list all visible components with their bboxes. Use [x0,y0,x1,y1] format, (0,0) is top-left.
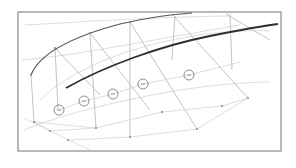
lattice-node [54,47,56,49]
lattice-node [129,21,131,23]
lattice-node [30,74,32,76]
wireframe-diagram [0,0,296,168]
lattice-node [95,127,97,129]
lattice-node [67,139,69,141]
lattice-node [196,128,198,130]
diagram-frame [18,12,281,151]
lattice-node [129,136,131,138]
lattice-node [161,111,163,113]
lattice-node [89,32,91,34]
lattice-node [49,130,51,132]
lattice-node [33,121,35,123]
lattice-node [221,105,223,107]
lattice-node [247,97,249,99]
